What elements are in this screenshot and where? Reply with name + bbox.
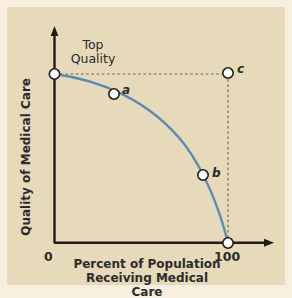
data-point-max-coverage[interactable]: [223, 238, 233, 248]
point-label-a: a: [122, 84, 130, 98]
x-axis-title-line2: Receiving Medical Care: [86, 271, 208, 298]
x-axis-arrowhead: [264, 239, 274, 247]
data-point-origin-top[interactable]: [49, 69, 59, 79]
x-axis-title-line1: Percent of Population: [73, 257, 220, 271]
data-point-b[interactable]: [198, 170, 208, 180]
tradeoff-curve: [55, 74, 229, 243]
top-quality-annotation: Top Quality: [62, 38, 124, 67]
point-label-b: b: [212, 167, 221, 181]
y-axis-title: Quality of Medical Care: [20, 67, 34, 247]
y-axis-arrowhead: [51, 26, 59, 36]
figure-container: Top Quality Quality of Medical Care Perc…: [0, 0, 292, 298]
data-point-c[interactable]: [223, 68, 233, 78]
x-tick-label-100: 100: [214, 250, 240, 264]
point-label-c: c: [237, 63, 244, 77]
data-point-a[interactable]: [109, 89, 119, 99]
x-tick-label-0: 0: [44, 250, 53, 264]
x-axis-title: Percent of Population Receiving Medical …: [72, 258, 222, 298]
